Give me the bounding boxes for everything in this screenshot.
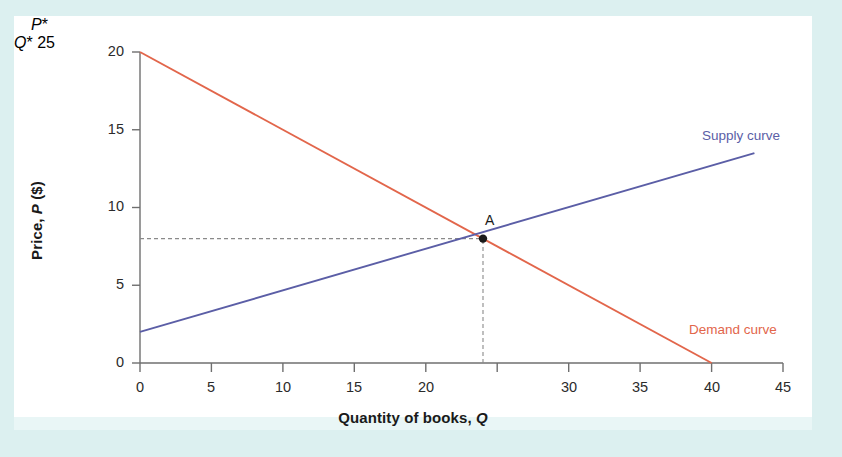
x-axis-ticks [140, 363, 783, 372]
supply-demand-plot [14, 16, 812, 417]
chart-card: 0 5 10 15 20 P* 0 5 10 15 20 30 35 40 45… [14, 16, 812, 417]
y-tick-label-5: 5 [90, 276, 124, 292]
x-tick-label-20: 20 [409, 379, 443, 395]
frame-band-left [0, 0, 14, 457]
x-tick-label-0: 0 [123, 379, 157, 395]
x-tick-label-10: 10 [266, 379, 300, 395]
supply-curve-label: Supply curve [702, 128, 780, 143]
demand-curve-label: Demand curve [689, 322, 777, 337]
x-tick-label-40: 40 [695, 379, 729, 395]
x-tick-label-30: 30 [552, 379, 586, 395]
equilibrium-point-marker [479, 234, 487, 242]
x-tick-label-35: 35 [623, 379, 657, 395]
x-axis-title-symbol: Q [476, 409, 488, 426]
frame-band-bottom [0, 430, 842, 457]
y-axis-title: Price, P ($) [28, 141, 45, 301]
y-tick-label-15: 15 [90, 121, 124, 137]
x-axis-title: Quantity of books, Q [14, 409, 812, 426]
y-axis-title-prefix: Price, [28, 214, 45, 260]
x-tick-label-5: 5 [194, 379, 228, 395]
frame-band-top [0, 0, 842, 16]
y-tick-label-10: 10 [90, 198, 124, 214]
equilibrium-point-label: A [485, 212, 494, 228]
figure-container: 0 5 10 15 20 P* 0 5 10 15 20 30 35 40 45… [0, 0, 842, 457]
frame-band-right [812, 0, 842, 457]
y-tick-label-20: 20 [90, 43, 124, 59]
x-tick-label-15: 15 [337, 379, 371, 395]
y-axis-title-suffix: ($) [28, 181, 45, 204]
y-tick-label-0: 0 [90, 354, 124, 370]
x-axis-title-prefix: Quantity of books, [338, 409, 476, 426]
y-axis-title-symbol: P [28, 204, 45, 214]
y-axis-ticks [132, 52, 140, 363]
demand-curve-line [140, 52, 712, 363]
x-tick-label-45: 45 [766, 379, 800, 395]
supply-curve-line [140, 153, 754, 332]
